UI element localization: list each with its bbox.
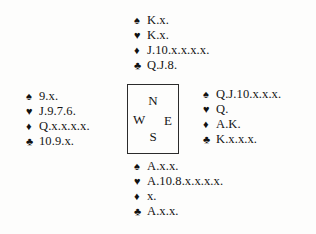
hand-south-spades-row: ♠ A.x.x. [134,159,223,174]
compass-east-label: E [164,114,172,127]
hand-west-diamonds: Q.x.x.x.x. [39,119,90,134]
spade-icon: ♠ [203,87,216,102]
club-icon: ♣ [203,132,216,147]
spade-icon: ♠ [26,89,39,104]
heart-icon: ♥ [134,28,147,43]
diamond-icon: ♦ [134,43,147,58]
hand-east-spades: Q.J.10.x.x.x. [216,87,281,102]
compass-south-label: S [128,130,178,143]
hand-north-diamonds: J.10.x.x.x.x. [147,43,209,58]
diamond-icon: ♦ [26,119,39,134]
bridge-deal-diagram: ♠ K.x. ♥ K.x. ♦ J.10.x.x.x.x. ♣ Q.J.8. ♠… [0,0,316,234]
hand-north-clubs-row: ♣ Q.J.8. [134,58,209,73]
hand-north-clubs: Q.J.8. [147,58,177,73]
club-icon: ♣ [26,134,39,149]
diamond-icon: ♦ [134,189,147,204]
hand-north: ♠ K.x. ♥ K.x. ♦ J.10.x.x.x.x. ♣ Q.J.8. [134,13,209,73]
hand-south-diamonds: x. [147,189,157,204]
compass-north-label: N [128,94,178,107]
hand-south-diamonds-row: ♦ x. [134,189,223,204]
hand-west: ♠ 9.x. ♥ J.9.7.6. ♦ Q.x.x.x.x. ♣ 10.9.x. [26,89,90,149]
hand-west-spades-row: ♠ 9.x. [26,89,90,104]
hand-east-hearts: Q. [216,102,228,117]
diamond-icon: ♦ [203,117,216,132]
hand-east-spades-row: ♠ Q.J.10.x.x.x. [203,87,281,102]
hand-north-spades: K.x. [147,13,169,28]
hand-west-hearts-row: ♥ J.9.7.6. [26,104,90,119]
club-icon: ♣ [134,58,147,73]
hand-south-clubs: A.x.x. [147,204,179,219]
hand-north-spades-row: ♠ K.x. [134,13,209,28]
hand-east-diamonds: A.K. [216,117,241,132]
hand-east-clubs-row: ♣ K.x.x.x. [203,132,281,147]
hand-west-diamonds-row: ♦ Q.x.x.x.x. [26,119,90,134]
hand-east-diamonds-row: ♦ A.K. [203,117,281,132]
heart-icon: ♥ [26,104,39,119]
hand-south-clubs-row: ♣ A.x.x. [134,204,223,219]
hand-south-spades: A.x.x. [147,159,179,174]
hand-west-spades: 9.x. [39,89,58,104]
hand-east-hearts-row: ♥ Q. [203,102,281,117]
hand-south: ♠ A.x.x. ♥ A.10.8.x.x.x.x. ♦ x. ♣ A.x.x. [134,159,223,219]
heart-icon: ♥ [203,102,216,117]
hand-north-hearts-row: ♥ K.x. [134,28,209,43]
hand-north-diamonds-row: ♦ J.10.x.x.x.x. [134,43,209,58]
hand-west-clubs-row: ♣ 10.9.x. [26,134,90,149]
club-icon: ♣ [134,204,147,219]
compass-box: N W E S [127,84,179,154]
spade-icon: ♠ [134,13,147,28]
hand-east: ♠ Q.J.10.x.x.x. ♥ Q. ♦ A.K. ♣ K.x.x.x. [203,87,281,147]
hand-west-hearts: J.9.7.6. [39,104,76,119]
heart-icon: ♥ [134,174,147,189]
compass-west-label: W [133,113,145,126]
hand-south-hearts-row: ♥ A.10.8.x.x.x.x. [134,174,223,189]
hand-south-hearts: A.10.8.x.x.x.x. [147,174,223,189]
hand-west-clubs: 10.9.x. [39,134,74,149]
hand-east-clubs: K.x.x.x. [216,132,257,147]
spade-icon: ♠ [134,159,147,174]
hand-north-hearts: K.x. [147,28,169,43]
